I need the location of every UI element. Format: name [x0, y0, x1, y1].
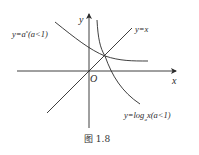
exponential-label-base: y=a [12, 29, 26, 39]
figure-caption: 图 1.8 [84, 135, 110, 144]
y-axis-label: y [79, 15, 83, 25]
logarithm-label-base: y=log [124, 110, 144, 120]
exponential-curve-label: y=ax(a<1) [12, 29, 48, 38]
identity-line [47, 28, 132, 113]
origin-label: O [90, 74, 97, 84]
exponential-label-condition: (a<1) [28, 29, 48, 39]
function-graph-figure: y x O y=ax(a<1) y=x y=logax(a<1) 图 1.8 [0, 0, 199, 155]
identity-line-label: y=x [135, 25, 148, 34]
logarithm-curve-label: y=logax(a<1) [124, 111, 171, 122]
logarithm-label-condition: x(a<1) [147, 110, 171, 120]
x-axis-label: x [172, 76, 176, 86]
logarithm-curve [97, 20, 140, 104]
graph-canvas [0, 0, 199, 155]
